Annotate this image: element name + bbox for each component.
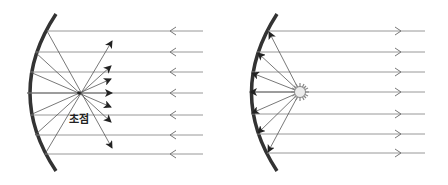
- focal-point: [77, 91, 81, 95]
- concave-mirror: [30, 14, 56, 171]
- concave-mirror: [252, 14, 278, 171]
- focus-label: 초점: [69, 110, 89, 126]
- right-diagram: [250, 14, 425, 171]
- open-arrowheads: [170, 27, 176, 158]
- left-diagram: [27, 14, 203, 171]
- incoming-rays: [27, 31, 203, 154]
- diagram-canvas: [0, 0, 448, 185]
